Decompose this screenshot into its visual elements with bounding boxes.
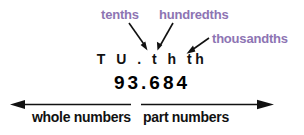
axis-arrow-left-icon: [10, 100, 25, 109]
caption-part-numbers: part numbers: [143, 110, 229, 124]
axis-arrow-right-icon: [257, 100, 274, 110]
callout-label-hundredths: hundredths: [159, 8, 229, 21]
callout-label-tenths: tenths: [101, 8, 139, 21]
decimal-place-value-diagram: tenths hundredths thousandths T U . t h …: [0, 0, 304, 135]
callout-arrow-tenths-icon: [129, 23, 148, 51]
callout-arrow-hundredths-icon: [157, 23, 173, 51]
place-value-row: T U . t h th: [0, 52, 304, 66]
callout-label-thousandths: thousandths: [212, 32, 288, 45]
decimal-number: 93.684: [0, 73, 304, 92]
caption-whole-numbers: whole numbers: [32, 110, 131, 124]
